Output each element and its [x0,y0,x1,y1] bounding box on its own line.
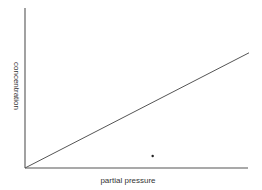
x-axis-label: partial pressure [100,176,156,185]
stray-dot [151,155,153,157]
series-line [25,53,249,168]
y-axis-label: concentration [12,62,21,110]
chart: partial pressure concentration [0,0,262,190]
plot-area [25,53,249,168]
